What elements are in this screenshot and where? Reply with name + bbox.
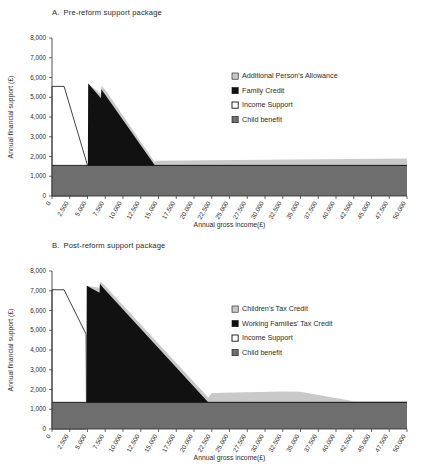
y-axis-title: Annual financial support (£) bbox=[7, 309, 15, 392]
x-axis-tick-label: 12,500 bbox=[125, 433, 141, 454]
legend-swatch bbox=[232, 117, 238, 123]
y-axis-tick-label: 0 bbox=[42, 425, 46, 432]
legend-swatch bbox=[232, 102, 238, 108]
x-axis-tick-label: 35,000 bbox=[285, 433, 301, 454]
legend-item[interactable]: Income Support bbox=[232, 100, 293, 109]
x-axis-tick-label: 45,000 bbox=[356, 200, 372, 221]
x-axis-tick-label: 10,000 bbox=[107, 433, 123, 454]
legend-item[interactable]: Additional Person's Allowance bbox=[232, 71, 338, 80]
legend-label: Additional Person's Allowance bbox=[242, 71, 338, 80]
x-axis-tick-label: 35,000 bbox=[285, 200, 301, 221]
x-axis-tick-label: 40,000 bbox=[320, 200, 336, 221]
legend-item[interactable]: Income Support bbox=[232, 333, 293, 342]
x-axis-tick-label: 12,500 bbox=[125, 200, 141, 221]
x-axis-tick-label: 25,000 bbox=[214, 433, 230, 454]
legend-label: Income Support bbox=[242, 100, 293, 109]
y-axis-tick-label: 2,000 bbox=[30, 386, 46, 393]
x-axis-tick-label: 0 bbox=[44, 433, 52, 440]
figure-root: A.Pre-reform support package 01,0002,000… bbox=[0, 0, 421, 465]
chart-panel-post-reform: B.Post-reform support package 01,0002,00… bbox=[0, 233, 421, 465]
x-axis-tick-label: 7,500 bbox=[91, 200, 105, 218]
x-axis-tick-label: 47,500 bbox=[373, 200, 389, 221]
legend-label: Child benefit bbox=[242, 348, 282, 357]
y-axis-tick-label: 5,000 bbox=[30, 93, 46, 100]
x-axis-tick-label: 40,000 bbox=[320, 433, 336, 454]
legend-item[interactable]: Working Families' Tax Credit bbox=[232, 319, 333, 328]
chart-a-svg: 01,0002,0003,0004,0005,0006,0007,0008,00… bbox=[0, 0, 421, 232]
x-axis-tick-label: 20,000 bbox=[178, 433, 194, 454]
series-area-child-benefit bbox=[52, 165, 407, 196]
y-axis-tick-label: 4,000 bbox=[30, 346, 46, 353]
legend-swatch bbox=[232, 335, 238, 341]
y-axis-tick-label: 1,000 bbox=[30, 172, 46, 179]
x-axis-tick-label: 32,500 bbox=[267, 200, 283, 221]
x-axis-tick-label: 22,500 bbox=[196, 200, 212, 221]
legend-item[interactable]: Child benefit bbox=[232, 348, 282, 357]
y-axis-tick-label: 7,000 bbox=[30, 54, 46, 61]
x-axis-tick-label: 7,500 bbox=[91, 433, 105, 451]
x-axis-tick-label: 37,500 bbox=[302, 200, 318, 221]
x-axis-tick-label: 50,000 bbox=[391, 433, 407, 454]
chart-b-svg: 01,0002,0003,0004,0005,0006,0007,0008,00… bbox=[0, 233, 421, 465]
x-axis-tick-label: 27,500 bbox=[231, 433, 247, 454]
chart-panel-pre-reform: A.Pre-reform support package 01,0002,000… bbox=[0, 0, 421, 232]
y-axis-tick-label: 7,000 bbox=[30, 287, 46, 294]
legend-label: Children's Tax Credit bbox=[242, 304, 308, 313]
x-axis-tick-label: 25,000 bbox=[214, 200, 230, 221]
x-axis-tick-label: 30,000 bbox=[249, 433, 265, 454]
x-axis-tick-label: 17,500 bbox=[160, 433, 176, 454]
y-axis-tick-label: 8,000 bbox=[30, 34, 46, 41]
x-axis-tick-label: 17,500 bbox=[160, 200, 176, 221]
x-axis-tick-label: 42,500 bbox=[338, 200, 354, 221]
x-axis-tick-label: 5,000 bbox=[73, 433, 87, 451]
x-axis-tick-label: 15,000 bbox=[143, 433, 159, 454]
y-axis-tick-label: 1,000 bbox=[30, 405, 46, 412]
y-axis-tick-label: 2,000 bbox=[30, 153, 46, 160]
x-axis-tick-label: 20,000 bbox=[178, 200, 194, 221]
y-axis-tick-label: 6,000 bbox=[30, 307, 46, 314]
y-axis-tick-label: 4,000 bbox=[30, 113, 46, 120]
x-axis-tick-label: 5,000 bbox=[73, 200, 87, 218]
y-axis-tick-label: 0 bbox=[42, 192, 46, 199]
legend-swatch bbox=[232, 350, 238, 356]
legend-swatch bbox=[232, 88, 238, 94]
y-axis-title: Annual financial support (£) bbox=[7, 76, 15, 159]
x-axis-tick-label: 50,000 bbox=[391, 200, 407, 221]
x-axis-tick-label: 47,500 bbox=[373, 433, 389, 454]
x-axis-tick-label: 15,000 bbox=[143, 200, 159, 221]
x-axis-tick-label: 2,500 bbox=[56, 433, 70, 451]
legend-swatch bbox=[232, 73, 238, 79]
x-axis-tick-label: 45,000 bbox=[356, 433, 372, 454]
x-axis-tick-label: 32,500 bbox=[267, 433, 283, 454]
x-axis-tick-label: 10,000 bbox=[107, 200, 123, 221]
y-axis-tick-label: 3,000 bbox=[30, 133, 46, 140]
x-axis-title: Annual gross income(£) bbox=[194, 221, 266, 229]
x-axis-tick-label: 2,500 bbox=[56, 200, 70, 218]
legend-swatch bbox=[232, 306, 238, 312]
x-axis-tick-label: 42,500 bbox=[338, 433, 354, 454]
x-axis-tick-label: 30,000 bbox=[249, 200, 265, 221]
x-axis-tick-label: 27,500 bbox=[231, 200, 247, 221]
x-axis-tick-label: 22,500 bbox=[196, 433, 212, 454]
y-axis-tick-label: 5,000 bbox=[30, 326, 46, 333]
legend-item[interactable]: Child benefit bbox=[232, 115, 282, 124]
y-axis-tick-label: 6,000 bbox=[30, 74, 46, 81]
y-axis-tick-label: 8,000 bbox=[30, 267, 46, 274]
x-axis-tick-label: 0 bbox=[44, 200, 52, 207]
legend-label: Family Credit bbox=[242, 86, 284, 95]
legend-item[interactable]: Children's Tax Credit bbox=[232, 304, 308, 313]
y-axis-tick-label: 3,000 bbox=[30, 366, 46, 373]
legend-label: Income Support bbox=[242, 333, 293, 342]
legend-label: Working Families' Tax Credit bbox=[242, 319, 333, 328]
x-axis-title: Annual gross income(£) bbox=[194, 454, 266, 462]
x-axis-tick-label: 37,500 bbox=[302, 433, 318, 454]
series-area-child-benefit bbox=[52, 402, 407, 429]
legend-label: Child benefit bbox=[242, 115, 282, 124]
legend-swatch bbox=[232, 321, 238, 327]
legend-item[interactable]: Family Credit bbox=[232, 86, 284, 95]
